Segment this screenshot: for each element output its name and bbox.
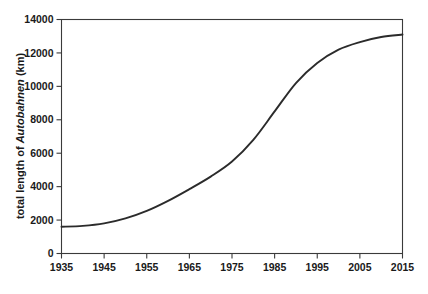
y-tick-label: 14000 xyxy=(24,13,53,25)
line-chart: 02000400060008000100001200014000 1935194… xyxy=(0,0,428,294)
x-tick-label: 2015 xyxy=(391,261,415,273)
y-tick-label: 12000 xyxy=(24,47,53,59)
x-tick-label: 1965 xyxy=(178,261,202,273)
y-tick-label: 6000 xyxy=(30,147,54,159)
y-tick-label: 8000 xyxy=(30,113,54,125)
x-tick-label: 1975 xyxy=(220,261,244,273)
x-tick-label: 2005 xyxy=(348,261,372,273)
y-axis-title-prefix: total length of xyxy=(14,143,26,219)
y-tick-label: 0 xyxy=(48,247,54,259)
y-axis-title: total length of Autobahnen (km) xyxy=(14,53,26,220)
chart-figure: 02000400060008000100001200014000 1935194… xyxy=(0,0,428,294)
x-tick-label: 1945 xyxy=(92,261,116,273)
y-axis-title-suffix: (km) xyxy=(14,53,26,80)
y-tick-label: 10000 xyxy=(24,80,53,92)
x-tick-label: 1935 xyxy=(50,261,74,273)
x-tick-label: 1955 xyxy=(135,261,159,273)
y-tick-label: 2000 xyxy=(30,214,54,226)
x-tick-label: 1995 xyxy=(306,261,330,273)
figure-background xyxy=(0,0,428,294)
x-axis-tick-labels: 193519451955196519751985199520052015 xyxy=(50,261,415,273)
y-axis-title-emphasis: Autobahnen xyxy=(14,79,26,144)
x-tick-label: 1985 xyxy=(263,261,287,273)
y-tick-label: 4000 xyxy=(30,180,54,192)
